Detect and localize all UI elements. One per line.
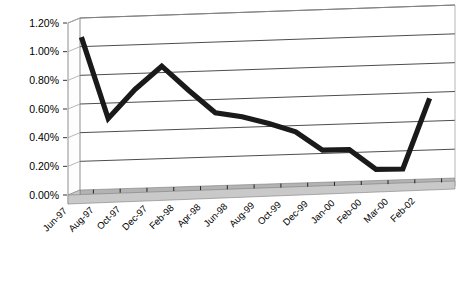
x-axis-tick-label: Oct-97 [94, 204, 122, 232]
line-chart-3d: 0.00%0.20%0.40%0.60%0.80%1.00%1.20% Jun-… [0, 0, 476, 285]
x-axis-tick-label: Mar-00 [361, 196, 390, 225]
x-axis-tick-label: Jun-98 [201, 201, 229, 229]
y-axis-tick-label: 1.20% [29, 17, 59, 29]
x-axis-tick-label: Jun-97 [40, 205, 68, 233]
y-axis-tick-label: 0.60% [29, 103, 59, 115]
x-axis-tick-label: Aug-99 [227, 200, 256, 229]
y-axis-tick-label: 1.00% [29, 45, 59, 57]
x-axis-tick-label: Jan-00 [308, 197, 336, 225]
y-axis-tick-label: 0.20% [29, 160, 59, 172]
y-axis-tick-label: 0.40% [29, 131, 59, 143]
y-axis-ticks: 0.00%0.20%0.40%0.60%0.80%1.00%1.20% [29, 17, 67, 201]
x-axis-tick-label: Dec-97 [120, 203, 149, 232]
x-axis-tick-label: Feb-00 [334, 197, 363, 226]
x-axis-tick-label: Dec-99 [280, 198, 309, 227]
x-axis-tick-label: Apr-98 [175, 201, 203, 229]
chart-screenshot: 0.00%0.20%0.40%0.60%0.80%1.00%1.20% Jun-… [0, 0, 476, 285]
y-axis-tick-label: 0.00% [29, 189, 59, 201]
x-axis-tick-label: Oct-99 [255, 199, 283, 227]
x-axis-tick-label: Feb-98 [147, 202, 176, 231]
y-axis-tick-label: 0.80% [29, 74, 59, 86]
x-axis-tick-label: Aug-97 [66, 204, 95, 233]
x-axis-tick-label: Feb-02 [388, 195, 417, 224]
